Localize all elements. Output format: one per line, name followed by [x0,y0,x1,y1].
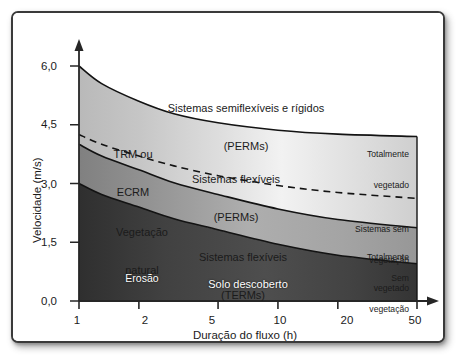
figure-container: 6,0 4,5 3,0 1,5 0,0 1 2 5 10 20 50 Veloc… [0,0,463,364]
y-tick-label-0: 0,0 [19,295,57,308]
region-label-flex-terms-line2: (TERMs) [168,289,318,302]
annotation-sem-vegetacao-terms: Sem vegetação [308,253,409,334]
x-axis-arrowhead [427,297,439,306]
region-label-flexiveis-terms: Sistemas flexíveis (TERMs) [168,226,318,327]
annotation-tv-perms-line2: vegetado [308,180,409,190]
region-label-flex-terms-line1: Sistemas flexíveis [168,251,318,264]
region-label-solo-descoberto: Solo descoberto [173,278,323,291]
annotation-svt-line2: vegetação [308,304,409,314]
region-label-flex-perms-line1: Sistemas flexíveis [161,173,311,186]
figure-frame: 6,0 4,5 3,0 1,5 0,0 1 2 5 10 20 50 Veloc… [11,11,445,343]
region-label-semiflexiveis-line1: Sistemas semiflexíveis e rígidos [131,102,361,115]
y-axis-arrowhead [75,39,84,51]
y-axis-ticks [70,66,79,301]
x-tick-label-1: 1 [60,314,94,327]
figure-frame-inner: 6,0 4,5 3,0 1,5 0,0 1 2 5 10 20 50 Veloc… [13,13,443,341]
y-axis-title: Velocidade (m/s) [31,157,43,243]
annotation-totalmente-vegetado-perms: Totalmente vegetado [308,129,409,210]
x-tick-label-2: 2 [128,314,162,327]
annotation-tv-perms-line1: Totalmente [308,149,409,159]
y-tick-label-6: 6,0 [19,60,57,73]
y-tick-label-4-5: 4,5 [19,118,57,131]
annotation-svt-line1: Sem [308,273,409,283]
